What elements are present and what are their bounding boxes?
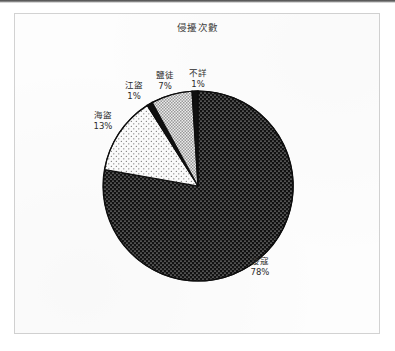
pie-label-yantu-name: 鹽徒	[143, 70, 187, 81]
pie-chart: 不詳 1% 鹽徒 7% 江盜 1% 海盜 13% 倭寇 78%	[0, 0, 395, 351]
pie-label-jiangdao-value: 1%	[112, 91, 156, 102]
pie-label-jiangdao-name: 江盜	[112, 80, 156, 91]
pie-label-haidao: 海盜 13%	[81, 110, 125, 131]
pie-label-wokou-value: 78%	[238, 267, 282, 278]
pie-label-wokou: 倭寇 78%	[238, 256, 282, 277]
pie-label-wokou-name: 倭寇	[238, 256, 282, 267]
pie-label-haidao-name: 海盜	[81, 110, 125, 121]
pie-label-jiangdao: 江盜 1%	[112, 80, 156, 101]
pie-chart-svg	[0, 0, 395, 351]
pie-label-haidao-value: 13%	[81, 121, 125, 132]
